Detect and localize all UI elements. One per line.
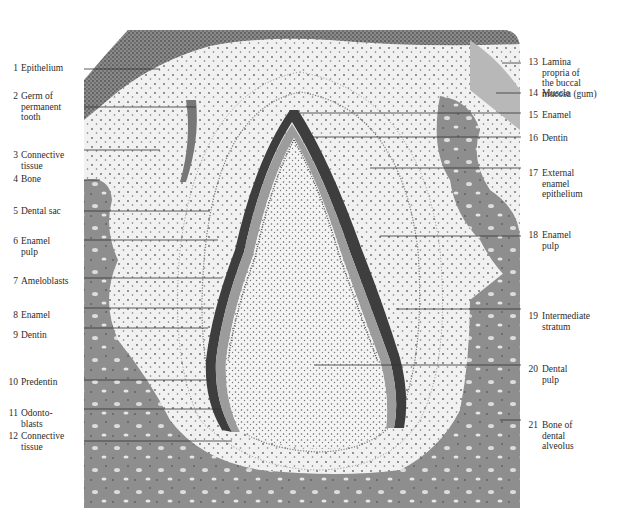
label-muscle: 14Muscle: [524, 88, 570, 99]
label-enamel-right: 15Enamel: [524, 110, 571, 121]
label-bone: 4Bone: [6, 174, 41, 185]
label-dentin-right: 16Dentin: [524, 133, 568, 144]
label-epithelium: 1Epithelium: [6, 63, 63, 74]
label-enamel-pulp-left: 6Enamel pulp: [6, 236, 50, 257]
label-ameloblasts: 7Ameloblasts: [6, 276, 69, 287]
tooth-development-figure: 1Epithelium 2Germ of permanent tooth 3Co…: [0, 0, 637, 524]
label-enamel-left: 8Enamel: [6, 310, 50, 321]
label-connective-tissue-lower: 12Connective tissue: [6, 431, 64, 452]
label-dentin-left: 9Dentin: [6, 330, 47, 341]
label-connective-tissue-upper: 3Connective tissue: [6, 150, 64, 171]
label-bone-dental-alveolus: 21Bone of dental alveolus: [524, 420, 574, 452]
label-external-enamel-epithelium: 17External enamel epithelium: [524, 168, 583, 200]
label-dental-sac: 5Dental sac: [6, 206, 61, 217]
label-dental-pulp: 20Dental pulp: [524, 364, 567, 385]
label-odontoblasts: 11Odonto- blasts: [6, 408, 53, 429]
label-intermediate-stratum: 19Intermediate stratum: [524, 311, 590, 332]
label-enamel-pulp-right: 18Enamel pulp: [524, 230, 571, 251]
label-predentin: 10Predentin: [6, 377, 57, 388]
label-germ-permanent-tooth: 2Germ of permanent tooth: [6, 91, 61, 123]
